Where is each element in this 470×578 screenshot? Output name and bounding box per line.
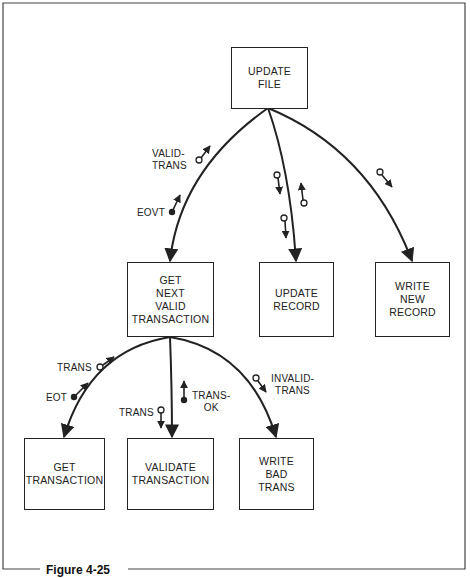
module-update-record: UPDATE RECORD bbox=[259, 262, 334, 337]
module-write-new-record: WRITE NEW RECORD bbox=[375, 262, 450, 337]
flow-label-eot: EOT bbox=[46, 392, 67, 404]
call-get-next-to-get-transaction bbox=[64, 337, 170, 437]
flow-label-trans-ok: TRANS- OK bbox=[192, 390, 230, 414]
data-couple-valid-trans-icon bbox=[196, 146, 210, 163]
control-couple-trans-ok-icon bbox=[181, 381, 187, 403]
module-label: WRITE BAD TRANS bbox=[258, 455, 295, 494]
call-update-file-to-update-record bbox=[268, 108, 296, 261]
data-couple-trans-down-icon bbox=[158, 407, 164, 428]
flow-label-eovt: EOVT bbox=[137, 207, 165, 219]
module-label: GET TRANSACTION bbox=[26, 461, 103, 487]
call-update-file-to-get-next bbox=[170, 108, 268, 261]
module-get-transaction: GET TRANSACTION bbox=[24, 438, 105, 510]
flow-label-trans-up: TRANS bbox=[57, 362, 92, 374]
call-get-next-to-validate-transaction bbox=[170, 337, 172, 437]
data-couple-down-1-icon bbox=[274, 172, 280, 194]
flow-label-trans-down: TRANS bbox=[119, 407, 154, 419]
module-validate-transaction: VALIDATE TRANSACTION bbox=[127, 438, 214, 510]
module-label: VALIDATE TRANSACTION bbox=[132, 461, 209, 487]
control-couple-eovt-icon bbox=[169, 195, 180, 215]
call-get-next-to-write-bad-trans bbox=[170, 337, 276, 437]
module-label: UPDATE RECORD bbox=[273, 287, 320, 313]
data-couple-new-record-icon bbox=[377, 169, 392, 187]
module-get-next-valid-transaction: GET NEXT VALID TRANSACTION bbox=[127, 262, 214, 337]
flow-label-invalid-trans: INVALID- TRANS bbox=[271, 373, 314, 397]
module-write-bad-trans: WRITE BAD TRANS bbox=[239, 438, 314, 510]
data-couple-trans-up-icon bbox=[97, 357, 114, 370]
data-couple-down-2-icon bbox=[281, 215, 287, 238]
module-label: GET NEXT VALID TRANSACTION bbox=[132, 274, 209, 326]
module-update-file: UPDATE FILE bbox=[231, 47, 308, 109]
module-label: UPDATE FILE bbox=[248, 65, 291, 91]
data-couple-up-icon bbox=[301, 183, 307, 206]
figure-caption: Figure 4-25 bbox=[40, 563, 116, 577]
flow-label-valid-trans: VALID- TRANS bbox=[152, 148, 187, 172]
module-label: WRITE NEW RECORD bbox=[389, 280, 436, 319]
